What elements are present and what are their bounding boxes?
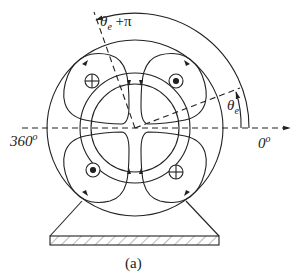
label-theta-e: θe <box>227 97 239 116</box>
conductor-upper-left-cross <box>85 74 99 88</box>
figure-caption: (a) <box>125 255 142 272</box>
conductor-lower-left-dot <box>86 163 100 177</box>
conductor-upper-right-dot <box>169 74 183 88</box>
conductor-lower-right-cross <box>169 165 183 179</box>
machine-flux-diagram: θe +π θe 360o 0o (a) <box>0 0 299 277</box>
label-theta-e-plus-pi: θe +π <box>100 13 132 32</box>
label-0-degrees: 0o <box>258 133 271 151</box>
label-360-degrees: 360o <box>9 131 38 149</box>
